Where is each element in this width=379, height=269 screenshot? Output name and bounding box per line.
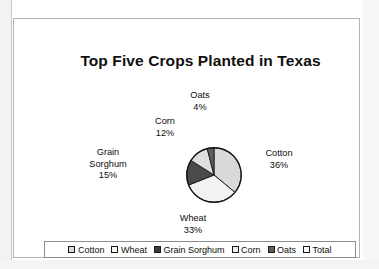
legend-item-grain-sorghum[interactable]: Grain Sorghum (154, 245, 225, 255)
pie-label-oats-name: Oats (174, 90, 226, 102)
legend-item-total[interactable]: Total (303, 245, 332, 255)
legend-label-corn: Corn (241, 245, 261, 255)
scan-edge-right (363, 0, 379, 269)
legend-swatch-corn (232, 246, 239, 253)
legend-swatch-wheat (111, 246, 118, 253)
chart-plot-area: Top Five Crops Planted in Texas Oats 4% (38, 43, 363, 266)
legend-item-cotton[interactable]: Cotton (68, 245, 104, 255)
pie-label-oats: Oats 4% (174, 90, 226, 113)
legend-label-oats: Oats (277, 245, 296, 255)
pie-label-cotton-pct: 36% (250, 160, 308, 172)
legend-label-cotton: Cotton (78, 245, 105, 255)
pie-label-grain-sorghum-name-line2: Sorghum (76, 159, 140, 171)
pie-label-wheat-pct: 33% (164, 225, 222, 237)
legend-item-corn[interactable]: Corn (232, 245, 261, 255)
pie-label-oats-pct: 4% (174, 102, 226, 114)
scan-edge-left (0, 0, 12, 269)
legend-label-wheat: Wheat (121, 245, 147, 255)
legend-swatch-oats (268, 246, 275, 253)
pie-chart (185, 146, 243, 204)
legend-swatch-grain-sorghum (154, 246, 161, 253)
pie-label-wheat-name: Wheat (164, 213, 222, 225)
chart-title: Top Five Crops Planted in Texas (38, 52, 363, 70)
pie-label-corn: Corn 12% (139, 116, 191, 139)
pie-label-corn-name: Corn (139, 116, 191, 128)
legend-item-oats[interactable]: Oats (268, 245, 297, 255)
pie-chart-svg (185, 146, 243, 204)
legend-swatch-total (303, 246, 310, 253)
chart-legend: Cotton Wheat Grain Sorghum Corn Oats Tot… (44, 241, 356, 258)
chart-frame: Top Five Crops Planted in Texas Oats 4% (13, 18, 360, 258)
legend-swatch-cotton (68, 246, 75, 253)
pie-label-grain-sorghum: Grain Sorghum 15% (76, 147, 140, 182)
pie-label-corn-pct: 12% (139, 128, 191, 140)
pie-label-cotton-name: Cotton (250, 148, 308, 160)
legend-label-total: Total (313, 245, 332, 255)
legend-item-wheat[interactable]: Wheat (111, 245, 147, 255)
legend-label-grain-sorghum: Grain Sorghum (163, 245, 224, 255)
pie-label-grain-sorghum-pct: 15% (76, 170, 140, 182)
pie-label-grain-sorghum-name-line1: Grain (76, 147, 140, 159)
pie-label-wheat: Wheat 33% (164, 213, 222, 236)
pie-label-cotton: Cotton 36% (250, 148, 308, 171)
